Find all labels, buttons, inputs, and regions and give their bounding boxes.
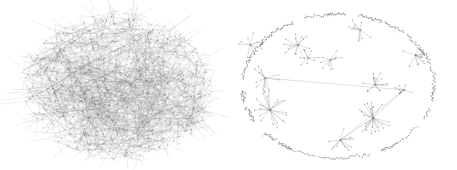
dense-network-graph	[0, 0, 230, 170]
clustered-network-graph	[230, 0, 457, 170]
dense-network-panel	[0, 0, 230, 170]
clustered-network-panel	[230, 0, 457, 170]
